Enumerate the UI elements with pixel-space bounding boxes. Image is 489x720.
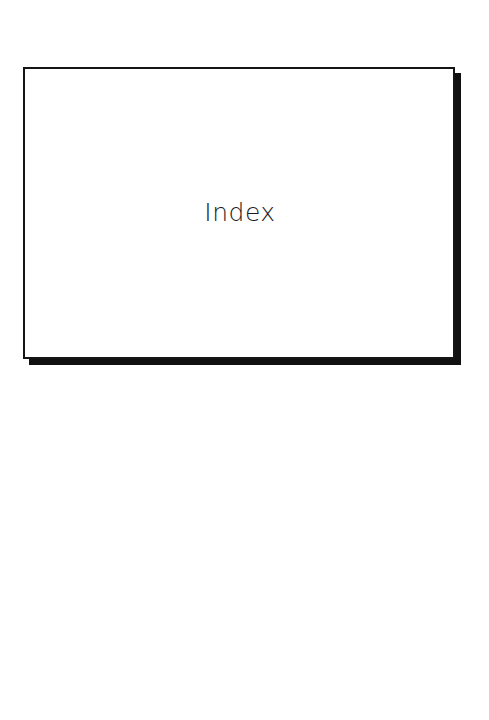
document-page: Index — [0, 0, 489, 720]
title-box: Index — [23, 67, 455, 359]
section-title: Index — [204, 198, 275, 227]
